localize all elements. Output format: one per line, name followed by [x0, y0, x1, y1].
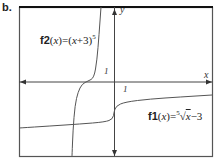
x-axis-arrow-right-icon [206, 80, 212, 85]
f2-exponent: 5 [92, 33, 96, 41]
f2-label: f2(x)=(x+3)5 [40, 34, 96, 46]
x-unit-tick-label: 1 [123, 84, 128, 94]
x-axis-label: x [204, 69, 208, 80]
f1-expr-rest: −3 [191, 110, 203, 122]
f1-arg: x [161, 110, 166, 122]
x-axis-arrow-left-icon [20, 80, 26, 85]
y-unit-tick-label: 1 [104, 66, 109, 76]
y-axis-arrow-down-icon [112, 150, 117, 156]
f2-arg: x [53, 34, 58, 46]
y-axis-label: y [120, 4, 124, 15]
f1-name: f1 [148, 110, 158, 122]
f1-label: f1(x)=5√x−3 [148, 110, 202, 122]
f2-expr-rest: +3) [77, 34, 92, 46]
f2-name: f2 [40, 34, 50, 46]
y-axis-arrow-up-icon [112, 9, 117, 15]
chart-canvas [0, 0, 223, 161]
